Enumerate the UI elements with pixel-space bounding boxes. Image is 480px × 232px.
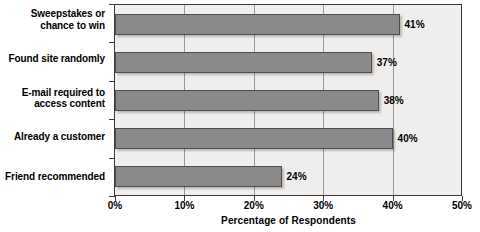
category-label-line: Sweepstakes or <box>31 8 105 19</box>
x-axis-tick-label: 50% <box>452 200 472 211</box>
bar <box>115 166 282 187</box>
category-label: Already a customer <box>0 118 110 157</box>
category-label: Sweepstakes orchance to win <box>0 0 110 39</box>
category-label-line: Found site randomly <box>9 53 105 64</box>
x-axis-tick-label: 10% <box>174 200 194 211</box>
category-label: E-mail required toaccess content <box>0 78 110 117</box>
bar-row: 37% <box>115 43 461 81</box>
bar <box>115 90 379 111</box>
bar-value-label: 41% <box>400 19 425 30</box>
bar-row: 38% <box>115 81 461 119</box>
category-label-text: Found site randomly <box>9 53 105 65</box>
x-axis-tick-labels: 0%10%20%30%40%50% <box>0 200 480 214</box>
y-axis-ticks <box>109 4 115 196</box>
x-axis-title: Percentage of Respondents <box>115 215 462 226</box>
category-label-text: E-mail required toaccess content <box>22 87 105 110</box>
category-label-text: Friend recommended <box>5 171 105 183</box>
bar <box>115 128 393 149</box>
category-label-line: E-mail required to <box>22 87 105 98</box>
bar-value-label: 40% <box>393 133 418 144</box>
category-label-line: chance to win <box>40 20 105 31</box>
x-axis-tick-label: 30% <box>313 200 333 211</box>
y-axis-tick <box>109 119 115 120</box>
category-label-text: Sweepstakes orchance to win <box>31 8 105 31</box>
bar <box>115 52 372 73</box>
category-label: Friend recommended <box>0 157 110 196</box>
y-axis-tick <box>109 4 115 5</box>
x-axis-tick-label: 40% <box>383 200 403 211</box>
plot-area: 41%37%38%40%24% <box>115 4 462 196</box>
y-axis-tick <box>109 81 115 82</box>
category-label-line: Already a customer <box>14 131 105 142</box>
y-axis-tick <box>109 42 115 43</box>
category-label-line: Friend recommended <box>5 171 105 182</box>
bar-value-label: 24% <box>282 171 307 182</box>
category-label-text: Already a customer <box>14 131 105 143</box>
bar <box>115 14 400 35</box>
bar-value-label: 37% <box>372 57 397 68</box>
x-axis-tick-label: 20% <box>244 200 264 211</box>
category-label-line: access content <box>34 98 105 109</box>
bar-series: 41%37%38%40%24% <box>115 5 461 195</box>
y-axis-tick <box>109 158 115 159</box>
bar-chart: Sweepstakes orchance to winFound site ra… <box>0 0 480 232</box>
x-axis-tick-label: 0% <box>108 200 122 211</box>
category-axis-labels: Sweepstakes orchance to winFound site ra… <box>0 0 110 196</box>
bar-row: 41% <box>115 5 461 43</box>
category-label: Found site randomly <box>0 39 110 78</box>
bar-value-label: 38% <box>379 95 404 106</box>
bar-row: 40% <box>115 119 461 157</box>
bar-row: 24% <box>115 157 461 195</box>
